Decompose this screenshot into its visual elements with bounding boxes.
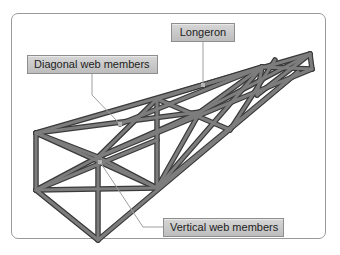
truss-members <box>36 54 312 240</box>
truss-fuselage-diagram <box>0 0 340 255</box>
longeron-label: Longeron <box>171 23 235 42</box>
diagonal-web-members-label: Diagonal web members <box>27 55 158 74</box>
vertical-web-members-label: Vertical web members <box>163 218 284 237</box>
